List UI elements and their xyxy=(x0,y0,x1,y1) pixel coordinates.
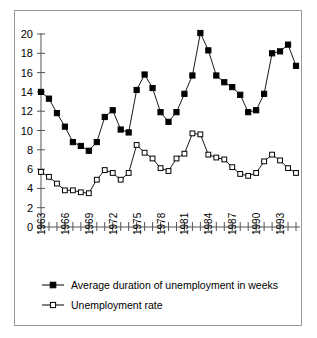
data-point-marker xyxy=(182,91,187,96)
x-tick-label: 1969 xyxy=(84,212,95,235)
series-average-duration xyxy=(38,30,298,153)
data-point-marker xyxy=(270,152,275,157)
legend-label: Average duration of unemployment in week… xyxy=(71,279,278,291)
y-tick-label: 16 xyxy=(21,67,33,79)
x-tick-label: 1963 xyxy=(36,212,47,235)
data-point-marker xyxy=(293,63,298,68)
data-point-marker xyxy=(269,51,274,56)
data-point-marker xyxy=(38,89,43,94)
data-point-marker xyxy=(286,166,291,171)
data-point-marker xyxy=(110,171,115,176)
data-point-marker xyxy=(78,143,83,148)
series-line xyxy=(41,33,296,151)
x-tick-label: 1981 xyxy=(179,212,190,235)
data-point-marker xyxy=(134,143,139,148)
data-point-marker xyxy=(158,166,163,171)
data-point-marker xyxy=(246,173,251,178)
data-point-marker xyxy=(110,108,115,113)
data-point-marker xyxy=(54,111,59,116)
legend-marker xyxy=(50,282,56,288)
y-tick-label: 20 xyxy=(21,28,33,40)
data-point-marker xyxy=(126,171,131,176)
x-tick-label: 1975 xyxy=(132,212,143,235)
data-point-marker xyxy=(214,155,219,160)
data-point-marker xyxy=(94,177,99,182)
data-point-marker xyxy=(55,181,60,186)
data-point-marker xyxy=(63,188,68,193)
x-tick-label: 1990 xyxy=(251,212,262,235)
data-point-marker xyxy=(118,177,123,182)
data-point-marker xyxy=(198,30,203,35)
chart-container: 02468101214161820 1963196619691972197519… xyxy=(0,0,317,338)
data-point-marker xyxy=(142,72,147,77)
data-point-marker xyxy=(198,132,203,137)
data-point-marker xyxy=(150,85,155,90)
data-point-marker xyxy=(158,110,163,115)
y-tick-label: 8 xyxy=(27,144,33,156)
x-tick-label: 1987 xyxy=(227,212,238,235)
data-point-marker xyxy=(134,87,139,92)
data-point-marker xyxy=(222,80,227,85)
data-point-marker xyxy=(142,150,147,155)
data-point-marker xyxy=(254,108,259,113)
y-tick-label: 2 xyxy=(27,202,33,214)
data-point-marker xyxy=(230,165,235,170)
data-point-marker xyxy=(46,96,51,101)
data-point-marker xyxy=(182,151,187,156)
data-point-marker xyxy=(150,156,155,161)
data-point-marker xyxy=(118,127,123,132)
data-point-marker xyxy=(285,42,290,47)
x-tick-label: 1978 xyxy=(156,212,167,235)
data-point-marker xyxy=(70,139,75,144)
x-tick-label: 1966 xyxy=(60,212,71,235)
data-point-marker xyxy=(254,171,259,176)
legend-label: Unemployment rate xyxy=(71,299,163,311)
data-point-marker xyxy=(278,158,283,163)
data-point-marker xyxy=(126,130,131,135)
data-point-marker xyxy=(222,157,227,162)
data-point-marker xyxy=(102,168,107,173)
legend-marker xyxy=(50,302,55,307)
data-point-marker xyxy=(78,190,83,195)
data-point-marker xyxy=(174,156,179,161)
data-point-marker xyxy=(166,169,171,174)
y-tick-label: 14 xyxy=(21,86,33,98)
y-tick-label: 10 xyxy=(21,125,33,137)
data-point-marker xyxy=(294,171,299,176)
data-point-marker xyxy=(230,84,235,89)
data-point-marker xyxy=(62,124,67,129)
data-point-marker xyxy=(70,188,75,193)
series-unemployment-rate xyxy=(39,131,299,196)
data-point-marker xyxy=(238,92,243,97)
x-tick-label: 1972 xyxy=(108,212,119,235)
data-point-marker xyxy=(190,73,195,78)
data-point-marker xyxy=(94,139,99,144)
chart-legend: Average duration of unemployment in week… xyxy=(42,279,278,311)
data-point-marker xyxy=(47,174,52,179)
y-tick-label: 0 xyxy=(27,221,33,233)
y-tick-label: 12 xyxy=(21,105,33,117)
y-tick-label: 6 xyxy=(27,163,33,175)
data-point-marker xyxy=(262,159,267,164)
data-point-marker xyxy=(102,114,107,119)
data-point-marker xyxy=(238,172,243,177)
data-point-marker xyxy=(190,131,195,136)
x-tick-label: 1984 xyxy=(203,212,214,235)
data-point-marker xyxy=(174,110,179,115)
data-point-marker xyxy=(246,110,251,115)
data-point-marker xyxy=(277,49,282,54)
data-point-marker xyxy=(86,148,91,153)
y-tick-label: 18 xyxy=(21,47,33,59)
data-point-marker xyxy=(166,119,171,124)
y-tick-label: 4 xyxy=(27,182,33,194)
unemployment-line-chart: 02468101214161820 1963196619691972197519… xyxy=(0,0,317,338)
data-point-marker xyxy=(214,73,219,78)
data-point-marker xyxy=(206,48,211,53)
data-point-marker xyxy=(262,91,267,96)
data-point-marker xyxy=(86,191,91,196)
x-tick-label: 1993 xyxy=(275,212,286,235)
data-point-marker xyxy=(39,170,44,175)
data-point-marker xyxy=(206,152,211,157)
series-line xyxy=(41,133,296,193)
